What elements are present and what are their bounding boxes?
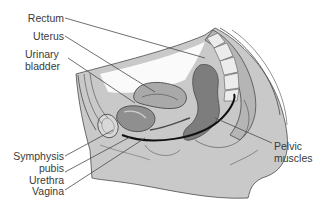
- pelvic-anatomy-diagram: Rectum Uterus Urinary bladder Symphysis …: [0, 0, 327, 207]
- label-vagina: Vagina: [0, 185, 64, 197]
- label-symphysis-pubis-line1: Symphysis: [0, 150, 64, 162]
- label-rectum: Rectum: [10, 12, 64, 24]
- label-uterus: Uterus: [10, 30, 64, 42]
- label-symphysis-pubis-line2: pubis: [0, 162, 64, 174]
- label-urinary-bladder-line2: bladder: [25, 60, 60, 72]
- label-pelvic-muscles-line1: Pelvic: [274, 140, 302, 152]
- label-pelvic-muscles-line2: muscles: [274, 152, 313, 164]
- label-urinary-bladder-line1: Urinary: [25, 48, 59, 60]
